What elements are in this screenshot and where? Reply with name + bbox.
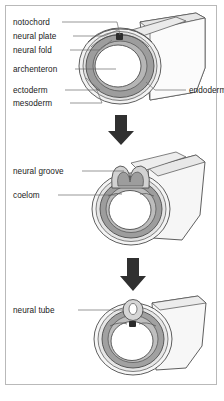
label-notochord: notochord <box>13 18 50 27</box>
stage3-archenteron-lumen <box>111 322 153 361</box>
neurulation-figure: .out { stroke:#4d4d4d; stroke-width:0.9;… <box>0 0 224 401</box>
arrow-stage2-to-stage3 <box>120 258 146 291</box>
stage3-neural-canal <box>129 304 137 315</box>
label-coelom: coelom <box>13 191 40 200</box>
label-neural-tube: neural tube <box>13 306 55 315</box>
arrow-1-shape <box>108 115 134 145</box>
label-mesoderm: mesoderm <box>13 99 52 108</box>
label-archenteron: archenteron <box>13 65 57 74</box>
stage1-cross-section <box>79 28 161 104</box>
label-neural-plate: neural plate <box>13 32 56 41</box>
label-neural-groove: neural groove <box>13 167 64 176</box>
stage-2-illustration <box>58 152 205 245</box>
arrow-stage1-to-stage2 <box>108 115 134 145</box>
stage2-archenteron-lumen <box>109 191 151 230</box>
label-ectoderm: ectoderm <box>13 86 48 95</box>
stage-3-illustration <box>78 296 206 375</box>
label-endoderm: endoderm <box>189 86 224 95</box>
label-neural-fold: neural fold <box>13 46 52 55</box>
stage1-archenteron-lumen <box>95 45 141 87</box>
arrow-2-shape <box>120 258 146 291</box>
stage3-notochord <box>129 321 136 327</box>
diagram-canvas: .out { stroke:#4d4d4d; stroke-width:0.9;… <box>0 0 224 401</box>
stage-1-illustration <box>62 13 205 104</box>
